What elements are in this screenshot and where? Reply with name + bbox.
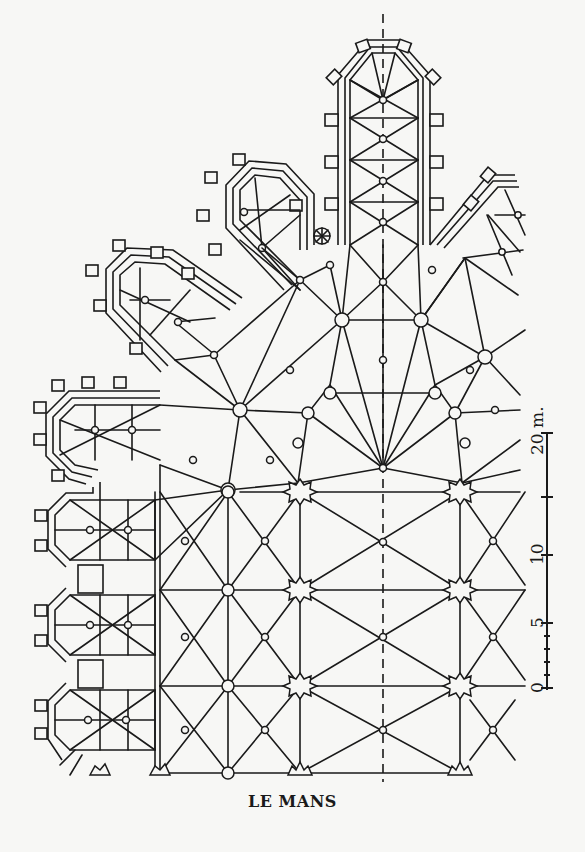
upper-left-chapel (197, 154, 314, 290)
axial-chapel (314, 39, 443, 245)
scale-label-20: 20 m. (527, 406, 547, 455)
plan-caption: LE MANS (0, 792, 585, 811)
scale-label-5: 5 (527, 617, 547, 628)
choir-vaults (155, 465, 525, 773)
ambulatory-vaults (155, 245, 525, 560)
scale-label-10: 10 (527, 543, 547, 565)
middle-left-chapel (86, 240, 242, 372)
side-chapels-left (34, 377, 160, 775)
right-chapel (430, 167, 525, 275)
scale-label-0: 0 (527, 682, 547, 693)
compound-pier-icon (90, 479, 477, 775)
scale-bar: 20 m. 10 5 0 (527, 406, 553, 693)
choir-piers (90, 479, 497, 779)
floor-plan: 20 m. 10 5 0 (0, 0, 585, 852)
